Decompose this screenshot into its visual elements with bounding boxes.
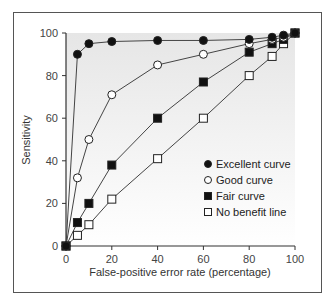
legend-marker-icon: [205, 193, 212, 200]
data-point: [85, 136, 93, 144]
legend-label: Excellent curve: [216, 158, 291, 170]
data-point: [199, 78, 207, 86]
data-point: [62, 242, 70, 250]
legend-marker-icon: [205, 161, 212, 168]
data-point: [280, 31, 288, 39]
data-point: [291, 29, 299, 37]
data-point: [245, 48, 253, 56]
data-point: [154, 36, 162, 44]
data-point: [108, 38, 116, 46]
y-tick-label: 80: [46, 70, 58, 82]
data-point: [154, 155, 162, 163]
y-tick-label: 60: [46, 112, 58, 124]
legend-label: No benefit line: [216, 206, 286, 218]
data-point: [85, 221, 93, 229]
data-point: [73, 50, 81, 58]
legend-label: Good curve: [216, 174, 273, 186]
data-point: [108, 195, 116, 203]
data-point: [245, 72, 253, 80]
x-tick-label: 80: [243, 253, 255, 265]
data-point: [154, 114, 162, 122]
x-tick-label: 20: [106, 253, 118, 265]
legend-item: No benefit line: [205, 206, 287, 218]
legend-marker-icon: [205, 209, 212, 216]
data-point: [245, 35, 253, 43]
data-point: [73, 174, 81, 182]
y-axis-label: Sensitivity: [20, 115, 32, 165]
data-point: [268, 52, 276, 60]
x-tick-label: 0: [63, 253, 69, 265]
y-tick-label: 100: [40, 27, 58, 39]
data-point: [154, 61, 162, 69]
roc-chart: 020406080100020406080100 Excellent curve…: [0, 0, 333, 303]
legend-item: Excellent curve: [205, 158, 291, 170]
x-tick-label: 40: [151, 253, 163, 265]
data-point: [73, 219, 81, 227]
data-point: [108, 161, 116, 169]
legend-marker-icon: [205, 177, 212, 184]
data-point: [268, 33, 276, 41]
x-tick-label: 100: [286, 253, 304, 265]
data-point: [85, 40, 93, 48]
data-point: [108, 91, 116, 99]
y-tick-label: 0: [52, 240, 58, 252]
data-point: [73, 231, 81, 239]
data-point: [199, 36, 207, 44]
data-point: [85, 199, 93, 207]
data-point: [199, 114, 207, 122]
legend-label: Fair curve: [216, 190, 265, 202]
y-tick-label: 40: [46, 155, 58, 167]
x-axis-label: False-positive error rate (percentage): [89, 266, 271, 278]
data-point: [199, 50, 207, 58]
x-tick-label: 60: [197, 253, 209, 265]
y-tick-label: 20: [46, 197, 58, 209]
